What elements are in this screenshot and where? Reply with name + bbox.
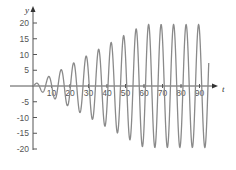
x-tick-label: 90 <box>195 88 205 98</box>
x-tick-label: 30 <box>84 88 94 98</box>
x-tick-label: 80 <box>176 88 186 98</box>
chart: y t 1020304050607080902015105-5-10-15-20 <box>0 0 236 170</box>
x-axis-label: t <box>222 84 225 94</box>
y-tick-label: -15 <box>17 128 30 138</box>
x-tick-label: 50 <box>121 88 131 98</box>
y-tick-label: -10 <box>17 113 30 123</box>
y-tick-label: -20 <box>17 144 30 154</box>
x-tick-label: 70 <box>158 88 168 98</box>
y-axis-label: y <box>24 5 29 15</box>
y-tick-label: -5 <box>21 97 29 107</box>
x-tick-label: 10 <box>47 88 57 98</box>
y-tick-label: 15 <box>20 34 30 44</box>
y-tick-label: 20 <box>20 18 30 28</box>
x-tick-label: 60 <box>139 88 149 98</box>
y-tick-label: 10 <box>20 50 30 60</box>
y-tick-label: 5 <box>24 65 29 75</box>
y-axis-arrow-icon <box>31 6 36 12</box>
x-axis-arrow-icon <box>212 84 218 89</box>
